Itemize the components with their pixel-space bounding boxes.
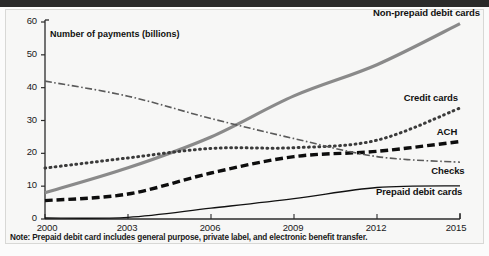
line-chart-plot: [6, 10, 483, 243]
series-label-non-prepaid-debit-cards: Non-prepaid debit cards: [373, 7, 480, 18]
x-tick-label: 2000: [27, 222, 67, 233]
series-label-ach: ACH: [437, 126, 457, 137]
y-tick-label: 60: [15, 15, 37, 26]
x-tick-label: 2003: [107, 222, 147, 233]
y-tick-label: 30: [15, 114, 37, 125]
chart-figure: Number of payments (billions) 0102030405…: [0, 0, 489, 256]
y-axis-title: Number of payments (billions): [50, 29, 180, 39]
figure-note: Note: Prepaid debit card includes genera…: [10, 233, 367, 242]
x-tick-label: 2015: [436, 222, 476, 233]
series-label-credit-cards: Credit cards: [404, 92, 458, 103]
series-label-checks: Checks: [431, 165, 464, 176]
series-label-prepaid-debit-cards: Prepaid debit cards: [376, 186, 462, 197]
y-tick-label: 10: [15, 179, 37, 190]
y-tick-label: 40: [15, 81, 37, 92]
x-tick-label: 2012: [356, 222, 396, 233]
x-tick-label: 2009: [273, 222, 313, 233]
x-tick-label: 2006: [190, 222, 230, 233]
y-tick-label: 20: [15, 146, 37, 157]
series-line-non-prepaid-debit-cards: [45, 24, 460, 193]
chart-frame: [5, 9, 484, 244]
y-tick-label: 50: [15, 48, 37, 59]
